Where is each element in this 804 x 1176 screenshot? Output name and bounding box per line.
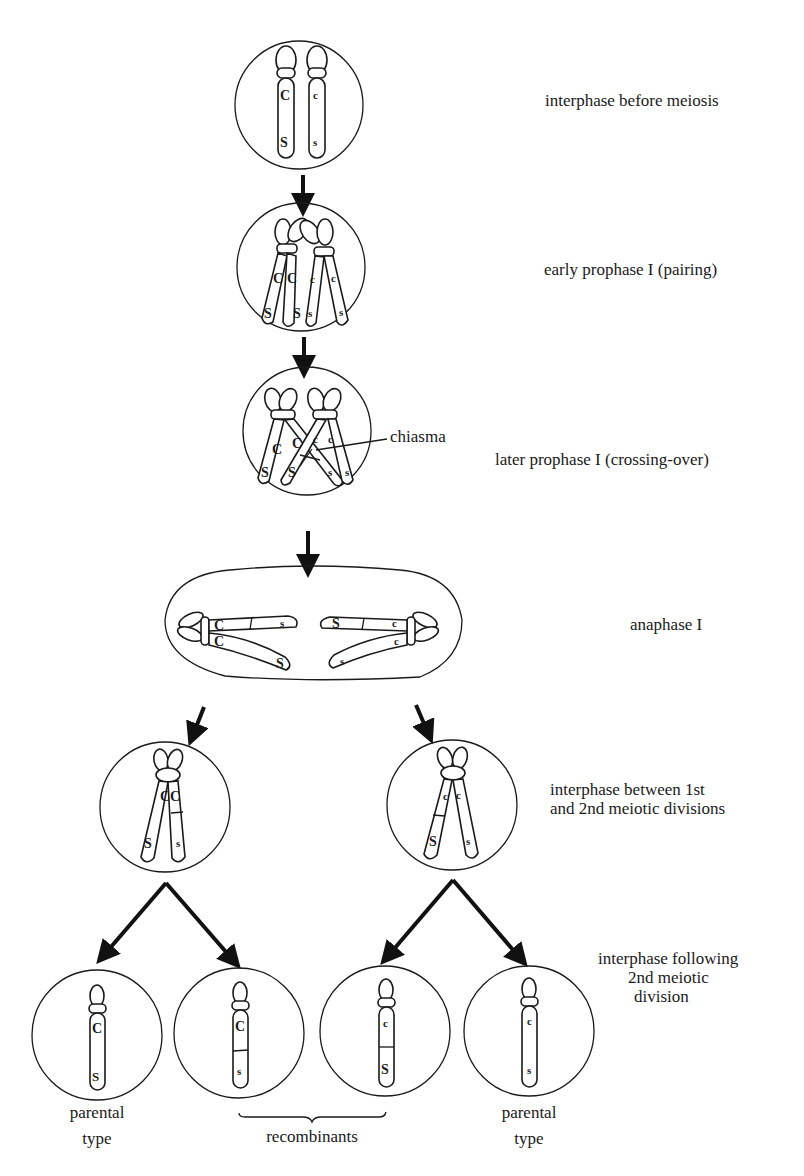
label-interphase-following-line1: interphase following: [598, 949, 738, 969]
svg-text:c: c: [313, 89, 318, 101]
chiasma-pointer: [316, 439, 387, 450]
cell-product-cS: c S: [320, 966, 450, 1096]
svg-text:S: S: [293, 306, 301, 321]
label-interphase-between-line1: interphase between 1st: [550, 780, 705, 800]
svg-text:C: C: [272, 442, 282, 457]
svg-text:s: s: [176, 837, 181, 849]
label-parental-left-2: type: [47, 1129, 147, 1149]
svg-text:C: C: [170, 789, 180, 804]
svg-text:s: s: [328, 466, 333, 478]
svg-text:s: s: [340, 655, 345, 667]
svg-text:C: C: [292, 436, 302, 451]
label-early-prophase-1: early prophase I (pairing): [544, 260, 717, 280]
svg-text:C: C: [273, 271, 283, 286]
svg-text:C: C: [287, 271, 297, 286]
chromosome-cs: c s: [307, 46, 327, 158]
svg-text:C: C: [92, 1021, 102, 1036]
label-parental-right-1: parental: [479, 1103, 579, 1123]
svg-text:S: S: [332, 616, 340, 631]
svg-text:s: s: [308, 307, 313, 319]
svg-text:c: c: [310, 273, 315, 285]
svg-text:c: c: [313, 433, 318, 445]
svg-text:C: C: [160, 789, 170, 804]
svg-text:s: s: [345, 466, 350, 478]
label-chiasma: chiasma: [390, 427, 446, 447]
svg-text:s: s: [237, 1065, 242, 1077]
cell-product-Cs: C s: [174, 968, 304, 1098]
svg-text:c: c: [331, 272, 336, 284]
arrow-anaphase-left: [193, 707, 204, 735]
cell-product-cs: c s: [464, 966, 594, 1096]
label-interphase-following-line3: division: [634, 987, 689, 1007]
svg-text:c: c: [527, 1015, 532, 1027]
label-interphase-following-line2: 2nd meiotic: [628, 968, 709, 988]
svg-text:s: s: [313, 136, 318, 148]
arrow-split-left-a: [104, 883, 166, 955]
svg-text:S: S: [381, 1062, 389, 1077]
arrow-anaphase-right: [416, 705, 428, 733]
svg-text:s: s: [527, 1064, 532, 1076]
svg-text:S: S: [288, 465, 296, 480]
arrow-split-right-b: [453, 880, 520, 958]
chromosome-CS: C S: [276, 46, 296, 158]
label-later-prophase-1: later prophase I (crossing-over): [495, 450, 709, 470]
label-recombinants: recombinants: [252, 1127, 372, 1147]
svg-text:s: s: [466, 835, 471, 847]
svg-text:S: S: [144, 836, 152, 851]
cell-interphase-between-left: C C S s: [100, 742, 230, 872]
label-interphase-before-meiosis: interphase before meiosis: [545, 91, 719, 111]
label-parental-left-1: parental: [47, 1103, 147, 1123]
cell-product-CS: C S: [32, 970, 162, 1100]
recombinants-brace: [239, 1112, 386, 1122]
label-parental-right-2: type: [479, 1129, 579, 1149]
svg-text:S: S: [264, 306, 272, 321]
label-interphase-between-line2: and 2nd meiotic divisions: [550, 799, 725, 819]
svg-text:S: S: [276, 656, 284, 671]
cell-interphase-between-right: c c S s: [387, 740, 517, 870]
cell-anaphase-1: C C s S S c c s: [165, 566, 462, 680]
cell-later-prophase-1: C C c c S S s s: [243, 367, 387, 495]
svg-text:s: s: [339, 306, 344, 318]
svg-text:c: c: [383, 1017, 388, 1029]
svg-text:s: s: [280, 617, 285, 629]
svg-text:S: S: [92, 1069, 99, 1084]
svg-text:C: C: [235, 1019, 245, 1034]
svg-text:S: S: [280, 135, 288, 150]
svg-text:C: C: [280, 88, 290, 103]
svg-text:C: C: [214, 618, 224, 633]
label-anaphase-1: anaphase I: [630, 615, 702, 635]
svg-text:c: c: [443, 790, 448, 802]
svg-text:S: S: [261, 465, 269, 480]
cell-early-prophase-1: C C c c S S s s: [237, 203, 365, 331]
cell-interphase-before-meiosis: C S c s: [235, 41, 363, 169]
arrow-split-left-b: [166, 883, 233, 960]
svg-text:C: C: [214, 634, 224, 649]
svg-text:c: c: [328, 433, 333, 445]
svg-text:c: c: [392, 617, 397, 629]
svg-text:c: c: [394, 635, 399, 647]
arrow-split-right-a: [388, 880, 453, 956]
svg-text:S: S: [429, 834, 437, 849]
svg-text:c: c: [456, 789, 461, 801]
